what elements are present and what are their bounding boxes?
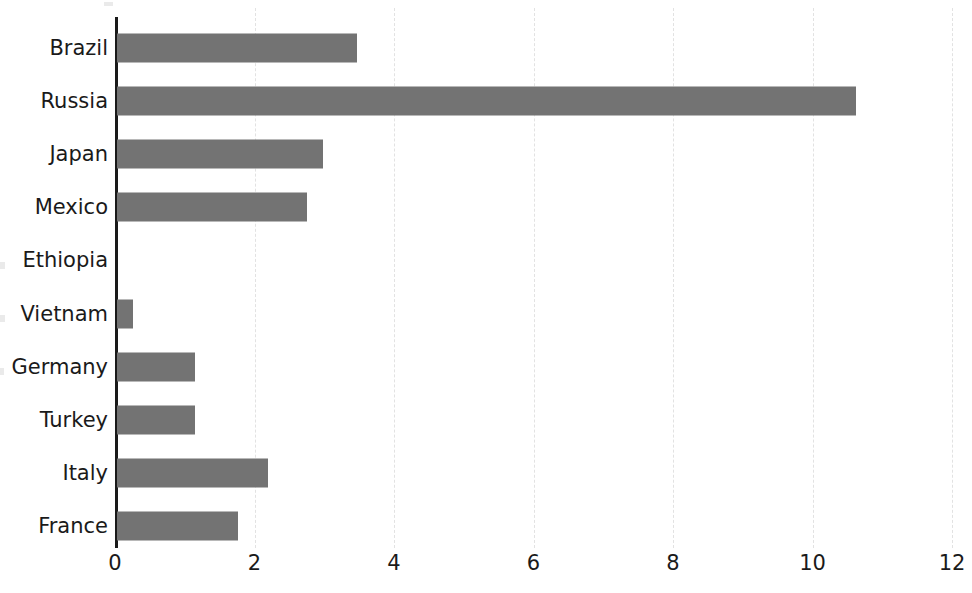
bar-italy[interactable] [117,459,268,488]
bar-russia[interactable] [117,86,856,115]
category-label-brazil: Brazil [49,37,108,58]
bar-mexico[interactable] [117,193,307,222]
category-label-germany: Germany [11,356,108,377]
bar-row: Russia [0,74,972,127]
bar-row: Japan [0,127,972,180]
category-label-russia: Russia [40,90,108,111]
bar-row: Vietnam [0,287,972,340]
bar-row: Mexico [0,181,972,234]
category-label-japan: Japan [49,143,108,164]
bar-france[interactable] [117,512,238,541]
bar-row: Ethiopia [0,234,972,287]
bar-germany[interactable] [117,352,195,381]
bar-vietnam[interactable] [117,299,133,328]
x-tick-label-6: 6 [527,553,540,574]
bar-chart: BrazilRussiaJapanMexicoEthiopiaVietnamGe… [0,0,972,593]
category-label-ethiopia: Ethiopia [22,250,108,271]
bar-row: Turkey [0,393,972,446]
category-label-vietnam: Vietnam [20,303,108,324]
category-label-mexico: Mexico [35,197,108,218]
bar-row: France [0,500,972,553]
bar-brazil[interactable] [117,33,357,62]
bar-row: Germany [0,340,972,393]
x-tick-label-10: 10 [799,553,826,574]
bar-row: Italy [0,447,972,500]
x-tick-label-0: 0 [108,553,121,574]
bar-turkey[interactable] [117,405,195,434]
x-tick-label-8: 8 [666,553,679,574]
category-label-italy: Italy [62,463,108,484]
category-label-turkey: Turkey [40,409,108,430]
scan-artifact [104,2,113,6]
x-tick-label-2: 2 [248,553,261,574]
category-label-france: France [38,516,108,537]
bar-row: Brazil [0,21,972,74]
x-tick-label-4: 4 [387,553,400,574]
plot-area: BrazilRussiaJapanMexicoEthiopiaVietnamGe… [0,0,972,593]
bar-japan[interactable] [117,139,323,168]
x-tick-label-12: 12 [939,553,966,574]
